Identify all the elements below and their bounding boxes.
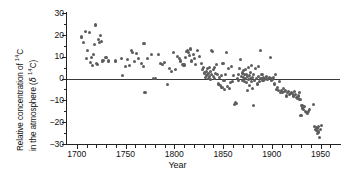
x-tick-label: 1750 [104,149,148,159]
x-tick-label: 1800 [152,149,196,159]
x-tick-label: 1950 [299,149,343,159]
x-tick-label: 1900 [250,149,294,159]
carbon14-scatter-figure: Relative concentration of 14C in the atm… [0,0,355,175]
x-tick-label: 1700 [55,149,99,159]
x-axis-title: Year [0,160,355,170]
x-axis-tick-labels: 170017501800185019001950 [0,0,355,175]
x-tick-label: 1850 [201,149,245,159]
